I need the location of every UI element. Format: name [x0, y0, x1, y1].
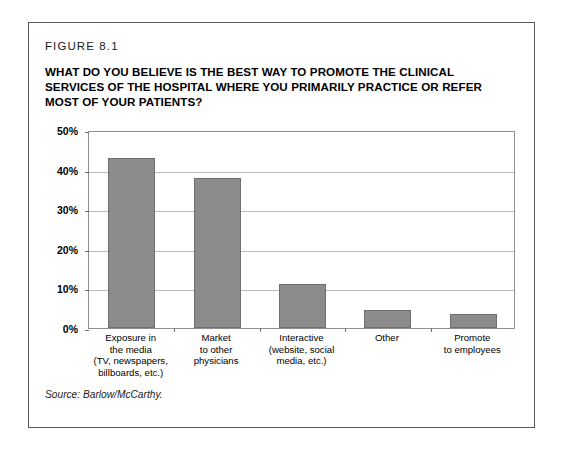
x-axis-category-line: Interactive: [253, 332, 350, 344]
figure-label: FIGURE 8.1: [45, 40, 119, 52]
x-axis-category-line: Market: [167, 332, 264, 344]
source-note: Source: Barlow/McCarthy.: [45, 389, 163, 400]
x-axis-category-line: Exposure in: [82, 332, 179, 344]
x-axis-category-line: the media: [82, 344, 179, 356]
x-axis-category-label: Interactive(website, socialmedia, etc.): [253, 332, 350, 367]
x-axis-category-line: Other: [338, 332, 435, 344]
figure-card: FIGURE 8.1 WHAT DO YOU BELIEVE IS THE BE…: [28, 22, 535, 428]
x-axis-category-line: (website, social: [253, 344, 350, 356]
x-axis-category-line: physicians: [167, 355, 264, 367]
x-axis-category-line: Promote: [424, 332, 521, 344]
x-axis-category-label: Promoteto employees: [424, 332, 521, 355]
x-axis-category-line: to other: [167, 344, 264, 356]
bar-chart: 50%40%30%20%10%0% Exposure inthe media(T…: [45, 131, 515, 371]
y-axis-tick-label: 20%: [57, 244, 78, 256]
x-axis-category-line: to employees: [424, 344, 521, 356]
y-axis-tick-label: 40%: [57, 165, 78, 177]
bar: [279, 284, 326, 328]
bar: [194, 178, 241, 328]
x-axis-category-line: billboards, etc.): [82, 367, 179, 379]
bar: [108, 158, 155, 328]
y-axis-tick-label: 30%: [57, 204, 78, 216]
bar: [450, 314, 497, 328]
x-axis-category-line: (TV, newspapers,: [82, 355, 179, 367]
y-tick-mark: [85, 330, 89, 331]
y-axis: 50%40%30%20%10%0%: [45, 131, 83, 329]
y-axis-tick-label: 10%: [57, 283, 78, 295]
y-axis-tick-label: 0%: [63, 323, 78, 335]
bar: [364, 310, 411, 328]
x-axis: Exposure inthe media(TV, newspapers,bill…: [88, 332, 515, 390]
y-axis-tick-label: 50%: [57, 125, 78, 137]
plot-area: [88, 131, 515, 329]
bars-layer: [89, 132, 514, 328]
x-axis-category-line: media, etc.): [253, 355, 350, 367]
x-axis-category-label: Other: [338, 332, 435, 344]
x-axis-category-label: Exposure inthe media(TV, newspapers,bill…: [82, 332, 179, 378]
x-axis-category-label: Marketto otherphysicians: [167, 332, 264, 367]
page-title: WHAT DO YOU BELIEVE IS THE BEST WAY TO P…: [45, 64, 507, 110]
